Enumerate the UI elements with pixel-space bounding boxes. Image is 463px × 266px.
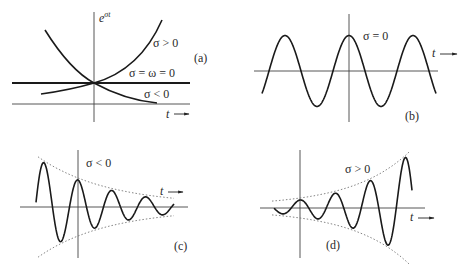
panel-d-t-label: t [410,210,414,224]
panel-a-label-growing: σ > 0 [153,36,178,50]
panel-d-envelope-lower [272,215,410,265]
panel-d-envelope-upper [272,151,410,201]
panel-a: eσt σ > 0 σ = ω = 0 σ < 0 t (a) [12,10,207,122]
panel-c-t-label: t [160,184,164,198]
signal-diagram: eσt σ > 0 σ = ω = 0 σ < 0 t (a) σ = 0 t … [0,0,463,266]
panel-b-label: σ = 0 [363,29,388,43]
panel-c-tag: (c) [174,239,187,253]
panel-b-t-label: t [432,46,436,60]
panel-b: σ = 0 t (b) [254,14,457,123]
panel-c: σ < 0 t (c) [20,150,188,258]
panel-b-tag: (b) [405,109,419,123]
panel-d: σ > 0 t (d) [260,150,434,265]
panel-a-y-label: eσt [99,10,111,25]
panel-a-label-decaying: σ < 0 [144,87,169,101]
panel-c-decaying-sinusoid [36,163,174,242]
panel-d-tag: (d) [326,238,340,252]
panel-a-t-label: t [166,107,170,121]
panel-a-label-constant: σ = ω = 0 [129,66,175,80]
panel-a-tag: (a) [194,51,207,65]
panel-d-label: σ > 0 [345,162,370,176]
panel-d-growing-sinusoid [274,158,412,246]
panel-c-label: σ < 0 [86,156,111,170]
